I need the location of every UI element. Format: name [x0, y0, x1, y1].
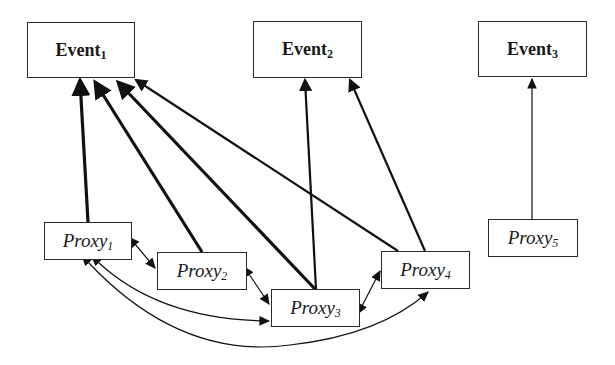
- event2-subscript: 2: [327, 47, 333, 61]
- causal-diagram: Event1Event2Event3Proxy1Proxy2Proxy3Prox…: [0, 0, 615, 365]
- event1-label: Event1: [56, 40, 107, 61]
- edge-proxy4-to-event2-arrow: [350, 80, 425, 251]
- edge-proxy1-to-proxy2-arrow: [135, 244, 155, 268]
- proxy4-subscript: 4: [445, 268, 451, 282]
- proxy4-node: Proxy4: [381, 251, 470, 289]
- edge-proxy4-to-event1-arrow: [136, 80, 398, 251]
- event1-node: Event1: [27, 22, 135, 78]
- proxy5-label: Proxy5: [508, 227, 559, 249]
- proxy1-node: Proxy1: [44, 222, 132, 260]
- event2-node: Event2: [253, 21, 362, 78]
- proxy1-subscript: 1: [107, 239, 113, 253]
- edge-proxy1-to-proxy4-arrow: [88, 262, 428, 347]
- event3-node: Event3: [478, 21, 587, 77]
- edge-proxy2-to-proxy3-arrow: [249, 274, 269, 304]
- proxy3-label: Proxy3: [290, 297, 341, 319]
- proxy5-subscript: 5: [552, 236, 558, 250]
- event2-label: Event2: [282, 39, 333, 60]
- event3-subscript: 3: [552, 47, 558, 61]
- proxy2-label: Proxy2: [177, 260, 228, 282]
- proxy3-subscript: 3: [335, 306, 341, 320]
- event3-label: Event3: [507, 39, 558, 60]
- event1-subscript: 1: [101, 48, 107, 62]
- edge-proxy1-to-event1-arrow: [80, 80, 88, 222]
- proxy3-node: Proxy3: [271, 289, 360, 327]
- proxy2-subscript: 2: [221, 269, 227, 283]
- proxy2-node: Proxy2: [157, 252, 247, 290]
- edge-proxy3-to-proxy4-arrow: [362, 271, 380, 306]
- edge-proxy3-to-event2-arrow: [305, 80, 316, 289]
- proxy1-label: Proxy1: [63, 230, 114, 252]
- proxy5-node: Proxy5: [488, 219, 578, 257]
- proxy4-label: Proxy4: [400, 259, 451, 281]
